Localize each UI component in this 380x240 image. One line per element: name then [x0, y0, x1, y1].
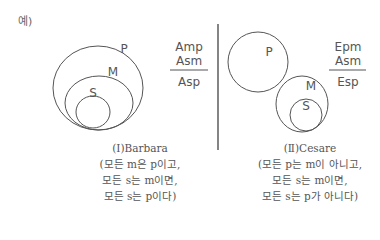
barbara-caption-line-3: 모든 s는 p이다) [90, 188, 190, 204]
barbara-premise-1: Amp [175, 40, 203, 54]
cesare-caption-line-2: 모든 s는 m이면, [245, 172, 375, 188]
cesare-caption-title: (Ⅱ)Cesare [245, 140, 375, 156]
barbara-label-p: P [120, 42, 127, 56]
barbara-caption-line-1: (모든 m은 p이고, [90, 156, 190, 172]
cesare-label-p: P [265, 45, 272, 59]
circle-m [65, 76, 133, 130]
barbara-caption-line-2: 모든 s는 m이면, [90, 172, 190, 188]
cesare-premise-2: Asm [335, 54, 361, 68]
circle-p [228, 32, 288, 92]
cesare-caption-line-3: 모든 s는 p가 아니다) [245, 188, 375, 204]
cesare-label-m: M [306, 79, 316, 93]
barbara-caption: (Ⅰ)Barbara (모든 m은 p이고, 모든 s는 m이면, 모든 s는 … [90, 140, 190, 204]
barbara-conclusion: Asp [178, 75, 200, 89]
barbara-premise-2: Asm [176, 54, 202, 68]
barbara-label-m: M [108, 65, 118, 79]
circle-s [76, 96, 110, 128]
circle-p [53, 46, 143, 130]
cesare-caption-line-1: (모든 p는 m이 아니고, [245, 156, 375, 172]
barbara-label-s: S [89, 86, 97, 100]
cesare-label-s: S [302, 99, 310, 113]
cesare-caption: (Ⅱ)Cesare (모든 p는 m이 아니고, 모든 s는 m이면, 모든 s… [245, 140, 375, 204]
cesare-conclusion: Esp [337, 75, 358, 89]
barbara-venn [53, 46, 143, 130]
barbara-caption-title: (Ⅰ)Barbara [90, 140, 190, 156]
cesare-premise-1: Epm [335, 40, 362, 54]
